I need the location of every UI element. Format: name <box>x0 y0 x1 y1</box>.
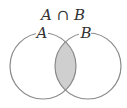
diagram-title: A ∩ B <box>39 6 85 24</box>
set-a-label: A <box>35 24 48 42</box>
venn-diagram: A ∩ B A B <box>0 0 127 108</box>
set-b-label: B <box>79 24 91 42</box>
